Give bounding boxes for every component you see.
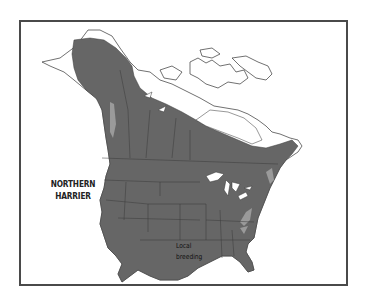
local-label-line-1: Local <box>176 241 202 252</box>
title-line-2: HARRIER <box>48 190 97 202</box>
arctic-islands <box>160 48 272 88</box>
local-label-line-2: breeding <box>176 252 202 263</box>
title-line-1: NORTHERN <box>48 178 97 190</box>
species-title: NORTHERN HARRIER <box>48 178 97 202</box>
local-breeding-label: Local breeding <box>176 241 202 263</box>
